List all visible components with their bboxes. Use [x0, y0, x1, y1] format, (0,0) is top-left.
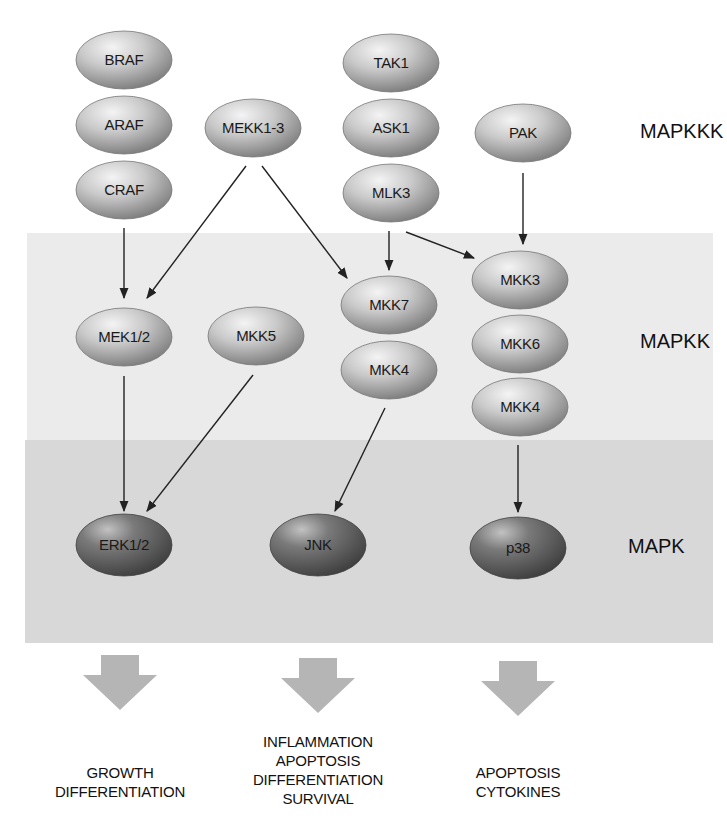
outcome-line: APOPTOSIS	[438, 763, 598, 782]
node-label: MEK1/2	[98, 328, 150, 345]
outcome-line: INFLAMMATION	[238, 732, 398, 751]
node-label: MKK4	[500, 398, 540, 415]
node-ask1: ASK1	[343, 99, 439, 157]
outcome-label: GROWTHDIFFERENTIATION	[40, 763, 200, 801]
node-mkk7: MKK7	[341, 276, 437, 334]
node-araf: ARAF	[76, 96, 172, 154]
node-mek12: MEK1/2	[76, 308, 172, 366]
node-tak1: TAK1	[343, 34, 439, 92]
node-label: CRAF	[104, 181, 144, 198]
node-label: JNK	[304, 536, 332, 553]
outcome-arrow-icon	[481, 661, 555, 716]
outcome-arrow-icon	[83, 655, 157, 710]
node-mkk3: MKK3	[472, 251, 568, 309]
node-p38: p38	[470, 517, 566, 579]
node-label: TAK1	[373, 54, 408, 71]
node-jnk: JNK	[270, 514, 366, 576]
node-craf: CRAF	[76, 161, 172, 219]
mapk-pathway-diagram: BRAFARAFCRAFMEKK1-3TAK1ASK1MLK3PAKMEK1/2…	[0, 0, 727, 827]
node-mlk3: MLK3	[343, 164, 439, 222]
node-mkk4a: MKK4	[341, 341, 437, 399]
node-label: PAK	[509, 124, 537, 141]
outcome-line: DIFFERENTIATION	[238, 770, 398, 789]
outcome-line: CYTOKINES	[438, 782, 598, 801]
node-mkk5: MKK5	[208, 307, 304, 365]
outcome-arrows-layer	[83, 655, 555, 716]
node-mekk13: MEKK1-3	[205, 99, 301, 157]
outcome-label: APOPTOSISCYTOKINES	[438, 763, 598, 801]
node-label: p38	[506, 539, 530, 556]
node-label: BRAF	[105, 51, 144, 68]
node-erk12: ERK1/2	[76, 514, 172, 576]
node-label: ASK1	[372, 119, 409, 136]
outcome-label: INFLAMMATIONAPOPTOSISDIFFERENTIATIONSURV…	[238, 732, 398, 808]
node-label: ARAF	[105, 116, 144, 133]
outcome-line: GROWTH	[40, 763, 200, 782]
outcome-line: DIFFERENTIATION	[40, 782, 200, 801]
node-label: MKK3	[500, 271, 540, 288]
node-label: MKK6	[500, 335, 540, 352]
level-label-mapkkk: MAPKKK	[640, 120, 724, 142]
node-label: MKK5	[236, 327, 276, 344]
node-pak: PAK	[475, 104, 571, 162]
node-mkk6: MKK6	[472, 315, 568, 373]
level-label-mapk: MAPK	[628, 535, 685, 557]
node-label: MLK3	[372, 184, 410, 201]
node-braf: BRAF	[76, 31, 172, 89]
outcome-line: APOPTOSIS	[238, 751, 398, 770]
node-mkk4b: MKK4	[472, 378, 568, 436]
node-label: MKK7	[369, 296, 409, 313]
outcome-line: SURVIVAL	[238, 789, 398, 808]
outcome-arrow-icon	[281, 658, 355, 713]
node-label: MEKK1-3	[222, 119, 284, 136]
node-label: MKK4	[369, 361, 409, 378]
node-label: ERK1/2	[99, 536, 149, 553]
level-label-mapkk: MAPKK	[640, 330, 711, 352]
